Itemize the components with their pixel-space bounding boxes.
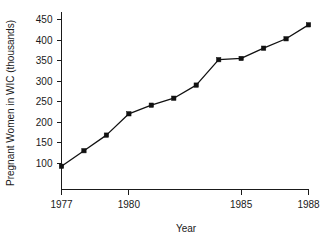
y-tick-label: 450 [36, 14, 53, 25]
data-point [104, 133, 108, 137]
y-tick-label: 100 [36, 158, 53, 169]
y-tick-label: 200 [36, 117, 53, 128]
y-tick-label: 250 [36, 96, 53, 107]
chart-container: Pregnant Women in WIC (thousands) Year 1… [0, 0, 334, 239]
x-axis-title: Year [176, 223, 197, 234]
y-tick-label: 350 [36, 55, 53, 66]
y-tick-label: 150 [36, 137, 53, 148]
y-tick-label: 300 [36, 76, 53, 87]
data-point [284, 37, 288, 41]
data-point [261, 46, 265, 50]
x-tick-label: 1988 [297, 199, 320, 210]
data-point [216, 57, 220, 61]
x-tick-label: 1980 [118, 199, 141, 210]
data-point [82, 149, 86, 153]
line-chart: Pregnant Women in WIC (thousands) Year 1… [0, 0, 334, 239]
y-axis-title: Pregnant Women in WIC (thousands) [5, 20, 16, 186]
x-tick-label: 1977 [50, 199, 73, 210]
data-point [194, 83, 198, 87]
data-point [149, 103, 153, 107]
data-point [306, 23, 310, 27]
data-point [239, 56, 243, 60]
y-tick-label: 400 [36, 35, 53, 46]
data-point [59, 164, 63, 168]
data-point [127, 112, 131, 116]
x-tick-label: 1985 [230, 199, 253, 210]
data-point [172, 96, 176, 100]
